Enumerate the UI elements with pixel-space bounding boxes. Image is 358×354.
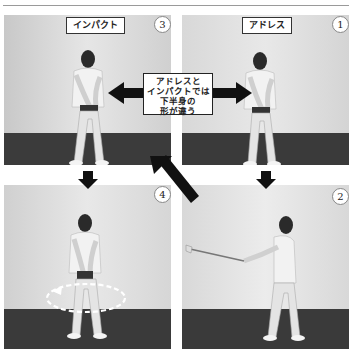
callout-box: アドレスと インパクトでは 下半身の 形が違う	[143, 73, 213, 115]
callout-line: アドレスと	[144, 76, 212, 86]
callout-line: 下半身の	[144, 96, 212, 106]
arrows-overlay	[0, 0, 358, 354]
down-arrow-icon	[78, 171, 98, 189]
callout-line: 形が違う	[144, 106, 212, 116]
diagonal-arrow-icon	[150, 155, 199, 203]
down-arrow-icon	[256, 171, 276, 189]
callout-line: インパクトでは	[144, 86, 212, 96]
